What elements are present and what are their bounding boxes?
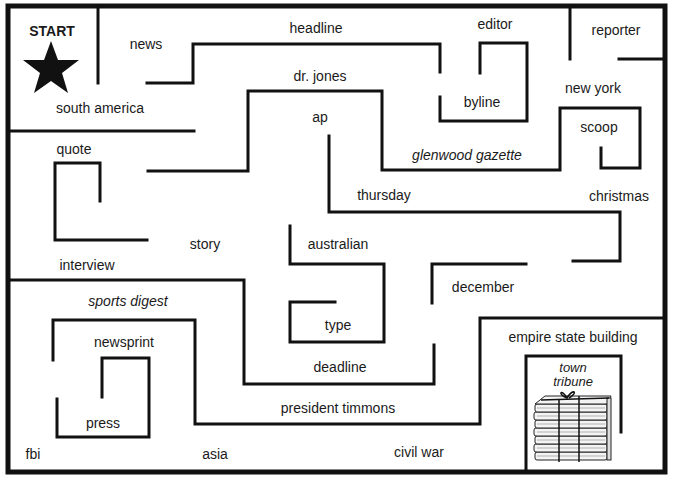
label-type: type (325, 317, 351, 333)
label-quote: quote (56, 141, 91, 157)
label-deadline: deadline (314, 359, 367, 375)
label-byline: byline (464, 94, 501, 110)
label-new-york: new york (565, 80, 621, 96)
label-reporter: reporter (591, 22, 640, 38)
label-south-america: south america (56, 100, 144, 116)
wall (55, 163, 147, 240)
label-empire-state-building: empire state building (508, 329, 637, 345)
label-press: press (86, 415, 120, 431)
label-story: story (190, 236, 220, 252)
label-ap: ap (312, 109, 328, 125)
label-newsprint: newsprint (94, 334, 154, 350)
label-scoop: scoop (580, 119, 617, 135)
start-label: START (29, 23, 75, 39)
label-asia: asia (202, 446, 228, 462)
label-dr-jones: dr. jones (294, 68, 347, 84)
label-news: news (130, 36, 163, 52)
label-president-timmons: president timmons (281, 400, 395, 416)
start-star-icon (22, 40, 80, 94)
newspaper-bundle-icon (531, 386, 615, 466)
label-sports-digest: sports digest (88, 293, 167, 309)
label-christmas: christmas (589, 188, 649, 204)
label-headline: headline (290, 20, 343, 36)
wall (148, 91, 640, 171)
label-december: december (452, 279, 514, 295)
label-australian: australian (308, 236, 369, 252)
finish-label-line1: town (559, 361, 586, 374)
label-editor: editor (477, 16, 512, 32)
wall (8, 280, 434, 384)
label-civil-war: civil war (394, 444, 444, 460)
label-glenwood-gazette: glenwood gazette (412, 147, 522, 163)
label-fbi: fbi (26, 446, 41, 462)
label-thursday: thursday (357, 187, 411, 203)
label-interview: interview (59, 257, 114, 273)
